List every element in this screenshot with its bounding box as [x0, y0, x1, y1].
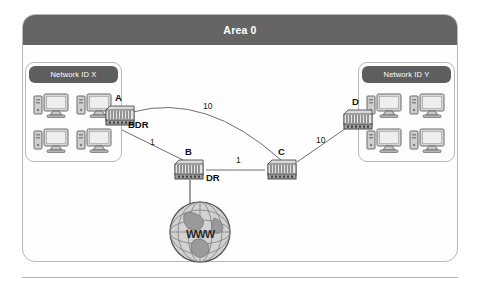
desktop-computer-icon [32, 125, 72, 155]
desktop-computer-icon [32, 90, 72, 120]
desktop-computer-icon [408, 125, 448, 155]
network-y-hosts [363, 87, 450, 157]
router-d-icon [341, 108, 375, 132]
router-a-label: A [115, 92, 122, 103]
network-y-label: Network ID Y [384, 70, 430, 79]
footer-divider [22, 277, 458, 278]
link-cost-c-d: 10 [316, 135, 325, 145]
router-b-icon [172, 158, 206, 182]
area-title: Area 0 [223, 24, 256, 36]
router-b-label: B [185, 146, 192, 157]
router-c-label: C [278, 146, 285, 157]
link-cost-a-b: 1 [150, 137, 155, 147]
network-topology-figure: Area 0 Network ID X [0, 0, 478, 286]
desktop-computer-icon [408, 90, 448, 120]
desktop-computer-icon [75, 125, 115, 155]
router-a-role-label: BDR [128, 119, 149, 130]
link-cost-a-c: 10 [203, 101, 212, 111]
router-d-label: D [352, 96, 359, 107]
globe-icon [164, 196, 236, 264]
link-cost-b-c: 1 [236, 155, 241, 165]
area-header: Area 0 [23, 15, 457, 45]
router-b-role-label: DR [206, 172, 220, 183]
network-x-header: Network ID X [29, 66, 118, 83]
network-y-header: Network ID Y [362, 66, 451, 83]
network-x-label: Network ID X [51, 70, 97, 79]
router-c-icon [265, 158, 299, 182]
